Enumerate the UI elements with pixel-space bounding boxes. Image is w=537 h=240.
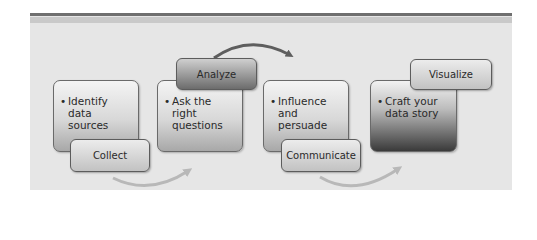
stage-bullet-analyze: • Ask the right questions <box>172 95 234 131</box>
arrow-analyze-to-communicate <box>214 45 290 58</box>
stage-bullet-visualize: • Craft your data story <box>385 95 455 119</box>
bullet-icon: • <box>164 95 170 107</box>
stage-box-analyze: • Ask the right questions <box>157 80 243 152</box>
stage-label-analyze: Analyze <box>176 58 257 90</box>
bullet-icon: • <box>270 95 276 107</box>
arrow-collect-to-analyze <box>113 171 188 186</box>
stage-label-communicate: Communicate <box>281 139 361 172</box>
stage-label-visualize: Visualize <box>410 59 492 90</box>
bullet-icon: • <box>60 95 66 107</box>
bullet-icon: • <box>377 95 383 107</box>
stage-box-visualize: • Craft your data story <box>370 80 457 152</box>
stage-bullet-communicate: • Influence and persuade <box>278 95 340 131</box>
stage-label-collect: Collect <box>70 139 150 172</box>
stage-bullet-collect: • Identify data sources <box>68 95 130 131</box>
